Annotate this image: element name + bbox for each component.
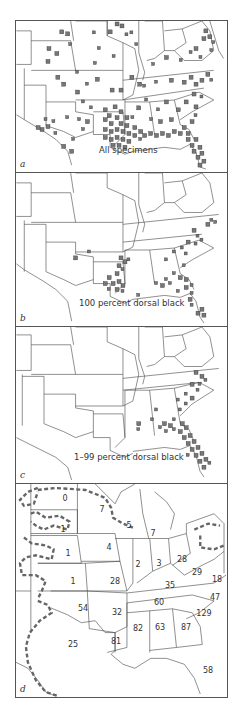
state-count-tx: 25	[68, 640, 78, 649]
map-panel-a: All specimens a	[15, 20, 228, 173]
state-count-ks: 1	[70, 577, 75, 586]
map-panel-d: 0 7 5 7 1 1 4 2 3 28 1 28 29 18 35 60 47…	[15, 483, 228, 698]
state-count-wv: 29	[192, 568, 202, 577]
state-boundaries	[16, 484, 226, 696]
state-count-ga: 87	[181, 623, 191, 632]
state-count-mo: 28	[110, 577, 120, 586]
state-count-al: 63	[155, 623, 165, 632]
panel-letter: c	[20, 470, 25, 480]
state-count-ky: 35	[165, 581, 175, 590]
map-panel-b: 100 percent dorsal black b	[15, 172, 228, 327]
panel-letter: b	[20, 313, 26, 323]
panel-caption: 100 percent dorsal black	[79, 298, 185, 308]
state-count-sc: 129	[196, 609, 211, 618]
state-count-in: 3	[156, 559, 161, 568]
state-count-ms: 82	[133, 624, 143, 633]
map-state-counts	[16, 484, 227, 697]
range-boundary-dashed	[20, 488, 224, 696]
state-count-fl: 58	[203, 666, 213, 675]
state-count-ia: 4	[106, 543, 111, 552]
state-count-la: 81	[111, 637, 121, 646]
panel-caption: 1–99 percent dorsal black	[74, 452, 184, 462]
state-count-ok: 54	[78, 604, 88, 613]
state-count-va: 18	[212, 575, 222, 584]
state-count-tn: 60	[154, 598, 164, 607]
state-count-mi: 7	[150, 529, 155, 538]
panel-letter: a	[20, 159, 25, 169]
state-count-oh: 28	[177, 555, 187, 564]
state-count-nd: 0	[62, 494, 67, 503]
panel-letter: d	[20, 684, 26, 694]
panel-caption: All specimens	[99, 145, 158, 155]
state-count-il: 2	[135, 560, 140, 569]
state-count-ar: 32	[112, 608, 122, 617]
state-count-nc: 47	[210, 593, 220, 602]
state-count-sd: 1	[60, 525, 65, 534]
map-panel-c: 1–99 percent dorsal black c	[15, 326, 228, 484]
state-count-mn: 7	[99, 505, 104, 514]
state-count-wi: 5	[126, 521, 131, 530]
state-count-ne: 1	[65, 549, 70, 558]
